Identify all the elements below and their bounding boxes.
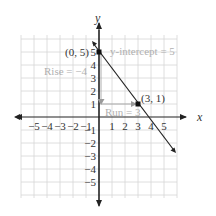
line-bottom-arrow-icon	[171, 148, 177, 154]
y-intercept-annotation: y-intercept = 5	[110, 45, 175, 57]
x-axis-label: x	[196, 110, 203, 124]
rise-annotation: Rise = −4	[44, 65, 87, 77]
graph-svg: x y −5 −4 −3 −2 −1 1 2 3 4 5 5 4 3 2 1 −…	[0, 0, 216, 216]
svg-text:−1: −1	[84, 124, 96, 136]
svg-text:−5: −5	[28, 120, 40, 132]
coordinate-plane-figure: x y −5 −4 −3 −2 −1 1 2 3 4 5 5 4 3 2 1 −…	[0, 0, 216, 216]
point-0-5	[97, 50, 102, 55]
svg-text:2: 2	[91, 85, 97, 97]
svg-text:4: 4	[148, 120, 154, 132]
svg-text:3: 3	[135, 120, 141, 132]
svg-text:−2: −2	[84, 137, 96, 149]
svg-text:3: 3	[91, 72, 97, 84]
x-axis-left-arrow-icon	[14, 114, 20, 120]
svg-text:2: 2	[122, 120, 128, 132]
point-label-0-5: (0, 5)	[65, 46, 89, 59]
svg-text:4: 4	[91, 59, 97, 71]
svg-text:−3: −3	[54, 120, 66, 132]
run-annotation: Run = 3	[105, 106, 141, 118]
svg-text:−4: −4	[84, 163, 96, 175]
point-label-3-1: (3, 1)	[141, 92, 165, 105]
svg-text:−5: −5	[84, 176, 96, 188]
svg-text:5: 5	[161, 120, 167, 132]
y-axis-label: y	[94, 11, 101, 25]
svg-text:−4: −4	[41, 120, 53, 132]
svg-text:−2: −2	[67, 120, 79, 132]
svg-text:−3: −3	[84, 150, 96, 162]
svg-text:1: 1	[109, 120, 115, 132]
svg-text:1: 1	[91, 98, 97, 110]
svg-text:5: 5	[91, 46, 97, 58]
